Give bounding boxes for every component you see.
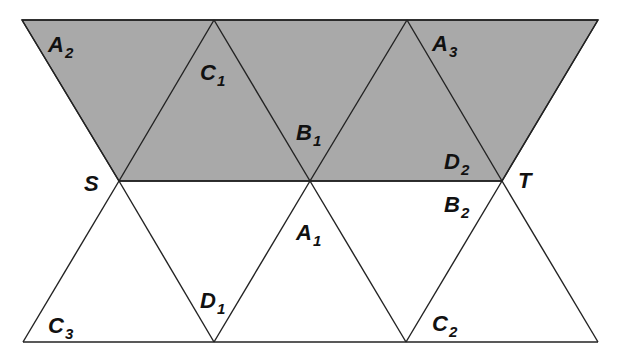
triangle-net-diagram: STA2C1B1A3D2B2A1D1C3C2: [0, 0, 625, 364]
vertex-label-subscript: 2: [64, 44, 74, 61]
vertex-label-subscript: 2: [460, 204, 470, 221]
vertex-label-subscript: 3: [65, 325, 74, 342]
vertex-label-subscript: 2: [460, 161, 470, 178]
shaded-region: [22, 20, 598, 181]
vertex-label-subscript: 2: [448, 323, 458, 340]
vertex-label-C3: C3: [48, 313, 74, 342]
vertex-label-subscript: 3: [449, 43, 458, 60]
vertex-label-subscript: 1: [313, 132, 321, 149]
vertex-label-S: S: [84, 171, 99, 196]
vertex-label-subscript: 1: [217, 72, 225, 89]
vertex-label-subscript: 1: [217, 300, 225, 317]
vertex-label-T: T: [518, 168, 533, 193]
vertex-label-D1: D1: [200, 288, 225, 317]
vertex-label-B2: B2: [444, 192, 470, 221]
vertex-label-C2: C2: [432, 311, 458, 340]
vertex-label-subscript: 1: [313, 232, 321, 249]
vertex-label-A1: A1: [295, 220, 321, 249]
